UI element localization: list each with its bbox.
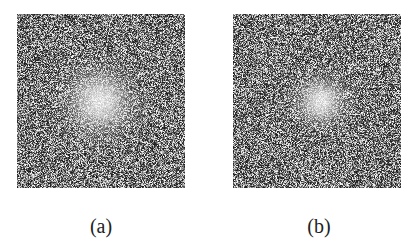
panel-label-a: (a) (71, 216, 131, 236)
noise-image-panel-a (17, 14, 185, 188)
panel-label-b: (b) (289, 216, 349, 236)
noise-image-panel-b (233, 14, 401, 188)
